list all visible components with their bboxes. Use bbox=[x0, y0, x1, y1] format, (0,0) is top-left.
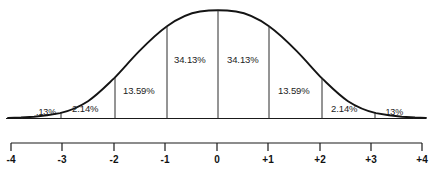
band-label-right-tail: .13% bbox=[383, 108, 403, 117]
axis-tick-label--1: -1 bbox=[161, 155, 170, 165]
bell-curve-plot bbox=[0, 0, 432, 169]
band-label-left-mid: 13.59% bbox=[123, 86, 155, 96]
axis-tick-label-+3: +3 bbox=[365, 155, 376, 165]
axis-tick-label--4: -4 bbox=[7, 155, 16, 165]
normal-distribution-figure: .13% 2.14% 13.59% 34.13% 34.13% 13.59% 2… bbox=[0, 0, 432, 169]
x-axis bbox=[11, 143, 422, 151]
band-label-left-outer: 2.14% bbox=[72, 104, 98, 114]
axis-tick-label--3: -3 bbox=[58, 155, 67, 165]
bell-curve-path bbox=[8, 10, 426, 118]
band-label-right-mid: 13.59% bbox=[278, 86, 310, 96]
band-label-left-inner: 34.13% bbox=[174, 55, 206, 65]
axis-tick-label--2: -2 bbox=[110, 155, 119, 165]
axis-tick-label-0: 0 bbox=[214, 155, 220, 165]
axis-tick-label-+1: +1 bbox=[262, 155, 273, 165]
axis-tick-label-+2: +2 bbox=[314, 155, 325, 165]
axis-tick-label-+4: +4 bbox=[416, 155, 427, 165]
band-label-right-inner: 34.13% bbox=[227, 55, 259, 65]
band-label-left-tail: .13% bbox=[36, 108, 56, 117]
band-label-right-outer: 2.14% bbox=[331, 104, 357, 114]
